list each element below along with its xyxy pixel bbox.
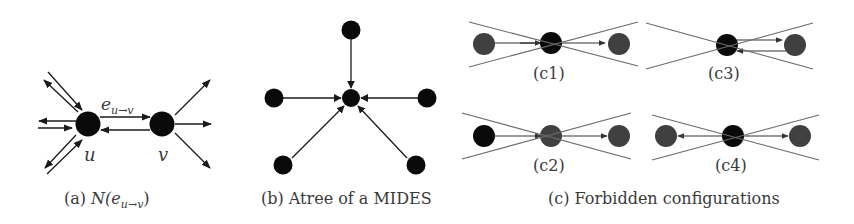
- node-v: [150, 112, 175, 137]
- config-c4: [652, 115, 819, 160]
- config-c2: [462, 113, 631, 159]
- node-u: [76, 112, 101, 137]
- label-c1: (c1): [533, 64, 565, 83]
- panel-b-atree: (b) Atree of a MIDES: [240, 0, 460, 224]
- node-bottom-right: [407, 156, 426, 175]
- node-right: [418, 89, 437, 108]
- config-c1: [469, 22, 638, 67]
- node-u-label: u: [84, 144, 96, 165]
- node-left: [265, 89, 284, 108]
- panel-c-forbidden: (c1) (c2) (c3) (c4) (c) Forbidden config…: [450, 0, 854, 224]
- label-c4: (c4): [715, 156, 747, 175]
- config-c3: [646, 23, 813, 69]
- node-center: [342, 89, 360, 107]
- caption-b: (b) Atree of a MIDES: [261, 189, 432, 208]
- label-c2: (c2): [533, 156, 565, 175]
- edge-label: eu→v: [101, 94, 134, 117]
- caption-a: (a) N(eu→v): [64, 189, 150, 211]
- panel-a-neighborhood: eu→v u v (a) N(eu→v): [0, 0, 240, 224]
- node-v-label: v: [158, 144, 168, 165]
- node-bottom-left: [274, 156, 293, 175]
- node-top: [342, 21, 361, 40]
- caption-c: (c) Forbidden configurations: [548, 189, 780, 208]
- label-c3: (c3): [708, 64, 740, 83]
